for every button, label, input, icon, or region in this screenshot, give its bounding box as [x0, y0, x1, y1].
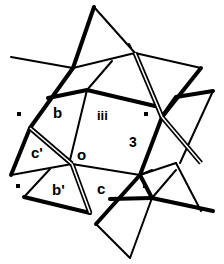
- thick-edges: [11, 7, 213, 224]
- label-b: b: [53, 104, 62, 121]
- region-labels: b iii c' o 3 b' c: [31, 104, 137, 198]
- label-c: c: [97, 180, 105, 197]
- square-marker-icon: [17, 112, 21, 116]
- square-marker-icon: [143, 184, 147, 188]
- label-o: o: [77, 146, 86, 163]
- thin-edges: [11, 7, 213, 258]
- label-3: 3: [129, 134, 137, 150]
- star-tiling-figure: b iii c' o 3 b' c: [0, 0, 224, 264]
- diagram-canvas: b iii c' o 3 b' c: [0, 0, 224, 264]
- square-marker-icon: [144, 112, 148, 116]
- label-iii: iii: [97, 108, 108, 123]
- label-b-prime: b': [52, 181, 65, 198]
- square-marker-icon: [16, 184, 20, 188]
- label-c-prime: c': [31, 144, 43, 161]
